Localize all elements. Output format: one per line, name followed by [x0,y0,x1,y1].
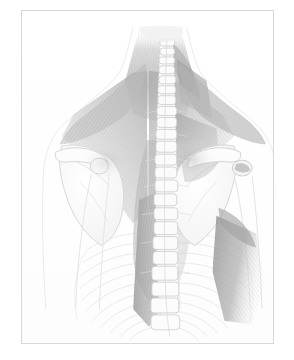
anatomy-figure [22,11,273,343]
illustration-page: Posterior Back and Neck Musculature post… [0,0,294,360]
anatomy-svg [22,11,273,343]
artwork-frame [21,10,274,344]
paper-veil [22,11,273,342]
